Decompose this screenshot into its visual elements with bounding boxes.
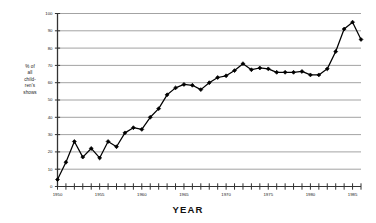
x-axis-title: YEAR	[0, 204, 376, 215]
y-tick-label-70: 70	[34, 63, 53, 68]
data-point-marker	[292, 70, 296, 74]
data-point-marker	[266, 67, 270, 71]
x-tick-label-1955: 1955	[88, 192, 112, 197]
data-point-marker	[308, 73, 312, 77]
x-tick-label-1975: 1975	[256, 192, 280, 197]
data-point-marker	[359, 38, 363, 42]
y-tick-label-40: 40	[34, 115, 53, 120]
x-tick-label-1950: 1950	[46, 192, 70, 197]
y-tick-label-100: 100	[34, 11, 53, 16]
y-tick-label-30: 30	[34, 132, 53, 137]
data-point-marker	[64, 160, 68, 164]
data-point-marker	[300, 70, 304, 74]
y-tick-label-0: 0	[34, 184, 53, 189]
x-tick-label-1980: 1980	[298, 192, 322, 197]
y-tick-label-10: 10	[34, 167, 53, 172]
data-point-marker	[283, 70, 287, 74]
y-axis-title-line-5: shows	[12, 90, 48, 96]
data-point-marker	[56, 178, 60, 182]
series-line	[58, 22, 362, 179]
data-point-marker	[275, 70, 279, 74]
chart-figure: % of all child- ren's shows YEAR 0102030…	[0, 0, 376, 223]
data-point-marker	[334, 50, 338, 54]
x-tick-label-1985: 1985	[341, 192, 365, 197]
y-tick-label-80: 80	[34, 46, 53, 51]
x-tick-label-1965: 1965	[172, 192, 196, 197]
line-chart-canvas	[0, 0, 376, 223]
x-tick-label-1960: 1960	[130, 192, 154, 197]
y-tick-label-20: 20	[34, 149, 53, 154]
x-tick-label-1970: 1970	[214, 192, 238, 197]
data-point-marker	[258, 66, 262, 70]
y-tick-label-90: 90	[34, 28, 53, 33]
y-tick-label-60: 60	[34, 80, 53, 85]
y-tick-label-50: 50	[34, 97, 53, 102]
